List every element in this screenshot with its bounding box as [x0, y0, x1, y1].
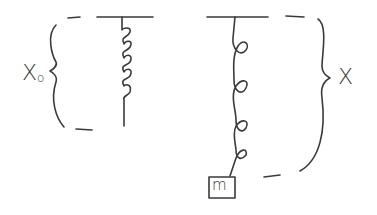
- right-top-dash: [286, 16, 304, 17]
- left-bottom-dash: [76, 129, 92, 130]
- x-label: X: [338, 64, 353, 89]
- right-bottom-dash: [264, 175, 280, 177]
- spring-diagram: [0, 0, 377, 215]
- left-spring: [122, 17, 131, 126]
- x0-label-main: X: [22, 60, 37, 85]
- left-top-dash: [68, 17, 80, 18]
- right-spring: [230, 17, 247, 176]
- mass-label: m: [212, 176, 227, 194]
- x0-label-subscript: o: [37, 71, 44, 85]
- right-brace: [300, 19, 330, 171]
- x0-label: Xo: [22, 60, 44, 85]
- left-brace: [50, 25, 64, 127]
